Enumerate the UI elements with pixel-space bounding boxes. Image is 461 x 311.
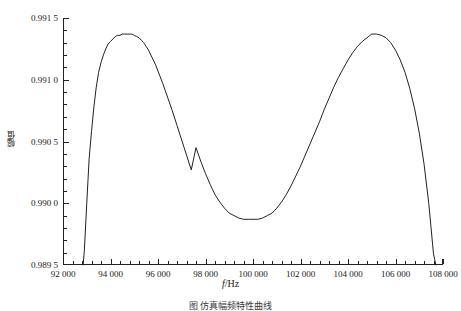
- amplitude-response-curve: [63, 18, 443, 265]
- x-axis-title-unit: /Hz: [225, 278, 239, 289]
- y-tick-label: 0.991 5: [22, 13, 58, 23]
- x-major-tick: [443, 259, 444, 264]
- plot-area: [63, 18, 443, 265]
- y-axis-title: 幅值: [8, 131, 16, 147]
- figure-caption: 图 仿真幅频特性曲线: [0, 299, 461, 311]
- y-tick-label: 0.991 0: [22, 75, 58, 85]
- x-axis-title: f/Hz: [0, 278, 461, 289]
- y-tick-label: 0.990 5: [22, 137, 58, 147]
- y-tick-label: 0.990 0: [22, 198, 58, 208]
- figure-panel: 幅值 0.991 5 0.991 0 0.990 5 0.990 0 0.989…: [0, 0, 461, 311]
